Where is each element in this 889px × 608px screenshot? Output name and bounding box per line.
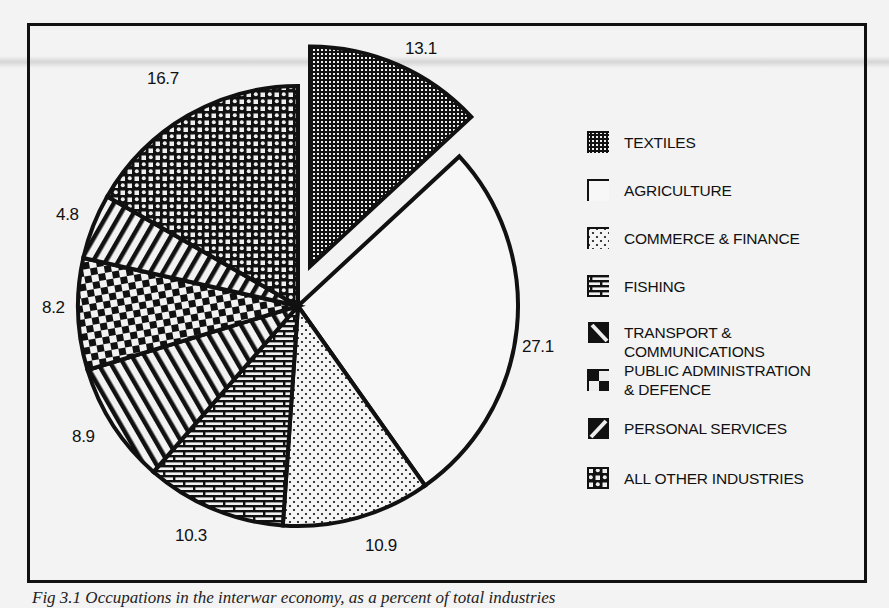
personal-swatch-icon [587, 417, 609, 439]
slice-label-transport: 8.9 [72, 427, 95, 447]
slice-label-other: 16.7 [147, 69, 179, 89]
slice-label-agriculture: 27.1 [522, 337, 554, 357]
commerce-swatch-icon [587, 227, 609, 249]
slice-label-personal: 4.8 [56, 205, 79, 225]
slice-label-fishing: 10.3 [175, 526, 207, 546]
public-admin-swatch-icon [587, 369, 609, 391]
other-swatch-icon [587, 467, 609, 489]
slice-label-commerce: 10.9 [365, 536, 397, 556]
textiles-swatch-icon [587, 131, 609, 153]
agriculture-swatch-icon [587, 179, 609, 201]
pie-slices [78, 47, 518, 526]
figure-caption: Fig 3.1 Occupations in the interwar econ… [32, 588, 555, 608]
fishing-swatch-icon [587, 275, 609, 297]
slice-label-textiles: 13.1 [405, 39, 437, 59]
slice-label-public-admin: 8.2 [42, 298, 65, 318]
transport-swatch-icon [587, 321, 609, 343]
